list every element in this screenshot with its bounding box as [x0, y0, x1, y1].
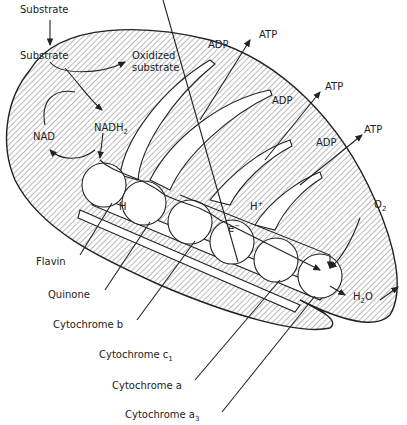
cytochrome-b-sphere	[168, 200, 212, 244]
label-adp-3: ADP	[316, 137, 337, 148]
label-nad: NAD	[33, 131, 55, 142]
label-atp-2: ATP	[325, 81, 343, 92]
label-oxidized-substrate: substrate	[132, 62, 179, 73]
label-atp-3: ATP	[364, 124, 382, 135]
label-oxidized: Oxidized	[132, 50, 175, 61]
label-adp-1: ADP	[208, 39, 229, 50]
cytochrome-a3-sphere	[298, 254, 342, 298]
quinone-sphere	[122, 181, 166, 225]
label-flavin: Flavin	[36, 256, 66, 267]
electron-transport-diagram: Substrate Substrate Oxidized substrate N…	[0, 0, 407, 425]
label-adp-2: ADP	[272, 95, 293, 106]
cytochrome-a-sphere	[254, 238, 298, 282]
label-quinone: Quinone	[48, 289, 90, 300]
label-substrate-inside: Substrate	[20, 50, 68, 61]
label-cytochrome-a: Cytochrome a	[112, 380, 182, 391]
label-substrate-outside: Substrate	[20, 4, 68, 15]
label-cytochrome-c1: Cytochrome c1	[99, 349, 173, 363]
label-h: H	[119, 201, 127, 212]
label-cytochrome-a3: Cytochrome a3	[125, 409, 199, 423]
label-atp-1: ATP	[259, 29, 277, 40]
label-cytochrome-b: Cytochrome b	[53, 319, 123, 330]
